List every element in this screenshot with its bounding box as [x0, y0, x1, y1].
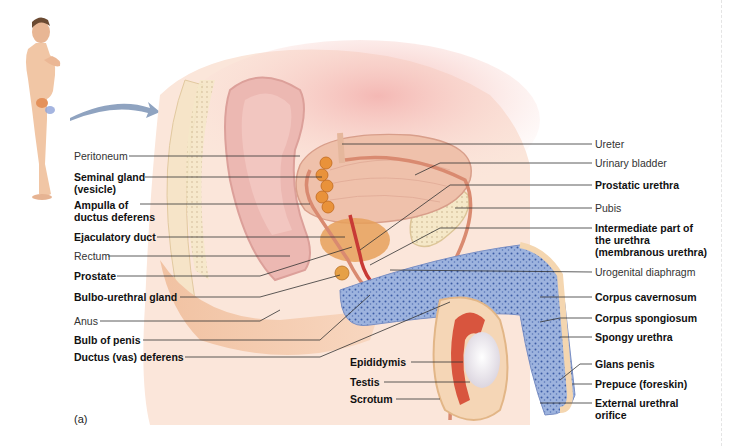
label-external-urethral-orifice: orifice — [595, 409, 627, 421]
label-ejaculatory-duct: Ejaculatory duct — [74, 231, 156, 243]
label-spongy-urethra: Spongy urethra — [595, 331, 673, 343]
label-pubis: Pubis — [595, 202, 621, 214]
label-ureter: Ureter — [595, 138, 624, 150]
label-membranous-urethra: (membranous urethra) — [595, 246, 707, 258]
label-urinary-bladder: Urinary bladder — [595, 157, 667, 169]
label-corpus-cavernosum: Corpus cavernosum — [595, 291, 697, 303]
label-corpus-spongiosum: Corpus spongiosum — [595, 312, 697, 324]
label-seminal-gland: Seminal gland — [74, 171, 145, 183]
label-bulbo-urethral-gland: Bulbo-urethral gland — [74, 291, 177, 303]
label-rectum: Rectum — [74, 250, 110, 262]
label-urogenital-diaphragm: Urogenital diaphragm — [595, 266, 695, 278]
label-testis: Testis — [350, 376, 380, 388]
label-ductus-vas-deferens: Ductus (vas) deferens — [74, 351, 184, 363]
label-ductus-deferens-ampulla: ductus deferens — [74, 211, 155, 223]
male-reproductive-diagram: Peritoneum Seminal gland (vesicle) Ampul… — [0, 0, 732, 446]
label-prostatic-urethra: Prostatic urethra — [595, 179, 679, 191]
page-edge-divider — [721, 0, 723, 446]
label-prepuce: Prepuce (foreskin) — [595, 378, 687, 390]
label-external-urethral: External urethral — [595, 397, 678, 409]
zoom-arrow-icon — [70, 102, 160, 121]
label-epididymis: Epididymis — [350, 356, 406, 368]
label-intermediate-urethra-2: the urethra — [595, 234, 650, 246]
label-seminal-gland-vesicle: (vesicle) — [74, 183, 116, 195]
label-peritoneum: Peritoneum — [74, 150, 128, 162]
human-figure-icon — [26, 17, 60, 200]
label-glans-penis: Glans penis — [595, 358, 655, 370]
label-ampulla-of: Ampulla of — [74, 199, 128, 211]
label-scrotum: Scrotum — [350, 393, 393, 405]
label-anus: Anus — [74, 315, 98, 327]
label-intermediate-urethra-1: Intermediate part of — [595, 222, 693, 234]
label-prostate: Prostate — [74, 270, 116, 282]
panel-label: (a) — [74, 413, 87, 425]
label-bulb-of-penis: Bulb of penis — [74, 334, 141, 346]
